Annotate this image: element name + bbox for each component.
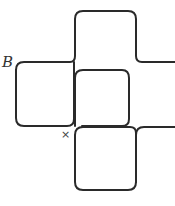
right-step-path — [136, 127, 175, 182]
lower-box-path — [75, 127, 136, 190]
path-diagram — [0, 0, 175, 206]
middle-box-path — [75, 70, 129, 126]
cross-marker: × — [61, 129, 70, 140]
top-bump-path — [16, 11, 175, 70]
left-box-path — [16, 62, 74, 126]
point-b-label: B — [2, 55, 13, 70]
